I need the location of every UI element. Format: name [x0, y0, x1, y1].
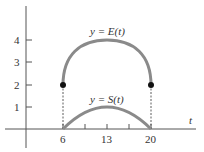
e-curve-label: y = E(t) [89, 25, 125, 38]
endpoint-dot-20 [148, 82, 154, 88]
x-label-6: 6 [60, 133, 66, 145]
y-label-1: 1 [14, 101, 20, 113]
endpoint-dot-6 [60, 82, 66, 88]
y-label-3: 3 [14, 56, 20, 68]
y-label-2: 2 [14, 79, 20, 91]
e-curve [63, 40, 151, 85]
x-label-13: 13 [101, 133, 113, 145]
chart: 1 2 3 4 6 13 20 t y = E(t) y = S(t) [0, 0, 204, 152]
x-axis-label: t [189, 114, 193, 126]
s-curve-label: y = S(t) [89, 93, 124, 106]
y-label-4: 4 [14, 34, 20, 46]
x-label-20: 20 [145, 133, 157, 145]
